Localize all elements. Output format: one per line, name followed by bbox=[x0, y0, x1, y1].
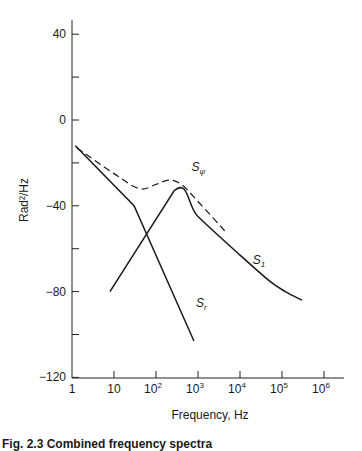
label-s-1: S1 bbox=[253, 253, 265, 269]
x-tick-label: 1 bbox=[69, 382, 76, 396]
label-s-r: Sr bbox=[196, 296, 207, 312]
y-tick-label: −40 bbox=[46, 199, 67, 213]
label-s-psi: Sψ bbox=[191, 160, 205, 176]
y-tick-label: 40 bbox=[53, 27, 67, 41]
y-tick-label: −80 bbox=[46, 285, 67, 299]
y-axis-title: Rad²/Hz bbox=[17, 178, 31, 222]
figure-caption: Fig. 2.3 Combined frequency spectra bbox=[2, 437, 212, 451]
axes: 400−40−80−120 110102103104105106 bbox=[39, 20, 344, 396]
curves bbox=[75, 146, 302, 341]
x-tick-label: 105 bbox=[270, 381, 288, 396]
curve-s-psi bbox=[77, 148, 228, 234]
x-tick-label: 10 bbox=[107, 382, 121, 396]
x-tick-label: 103 bbox=[186, 381, 204, 396]
y-tick-label: −120 bbox=[39, 370, 66, 384]
y-ticks: 400−40−80−120 bbox=[39, 27, 79, 384]
curve-s-1 bbox=[110, 188, 302, 301]
x-tick-label: 102 bbox=[144, 381, 162, 396]
x-ticks: 110102103104105106 bbox=[69, 371, 331, 396]
x-tick-label: 106 bbox=[312, 381, 330, 396]
curve-labels: SrS1Sψ bbox=[191, 160, 265, 311]
curve-s-r bbox=[75, 146, 194, 341]
x-tick-label: 104 bbox=[228, 381, 246, 396]
x-axis-title: Frequency, Hz bbox=[171, 408, 248, 422]
y-tick-label: 0 bbox=[59, 113, 66, 127]
